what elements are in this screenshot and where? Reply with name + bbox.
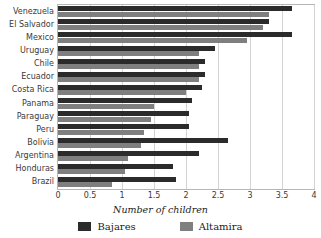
bar-bajares [58,138,228,143]
y-axis-label: Peru [0,125,54,134]
x-axis-tick-labels: 00.511.522.533.54 [0,191,321,203]
bar-altamira [58,169,125,174]
bar-altamira [58,143,141,148]
legend-item[interactable]: Bajares [78,221,135,232]
bar-group [58,31,314,44]
bar-bajares [58,177,176,182]
bar-group [58,123,314,136]
bar-bajares [58,59,205,64]
x-axis-tick: 3.5 [276,191,289,200]
legend-label: Altamira [199,221,243,232]
legend-item[interactable]: Altamira [180,221,243,232]
x-axis-tick: 1 [119,191,124,200]
gridline [314,5,315,189]
y-axis-label: Mexico [0,33,54,42]
x-axis-title: Number of children [0,204,321,215]
bar-bajares [58,98,192,103]
bar-group [58,5,314,18]
bar-bajares [58,124,189,129]
bar-altamira [58,25,263,30]
x-axis-tick: 0.5 [84,191,97,200]
y-axis-label: Argentina [0,151,54,160]
y-axis-label: Honduras [0,164,54,173]
bar-bajares [58,46,215,51]
bar-bajares [58,151,199,156]
bar-altamira [58,130,144,135]
bar-altamira [58,51,199,56]
bar-altamira [58,38,247,43]
bar-bajares [58,72,205,77]
bar-group [58,71,314,84]
bar-group [58,110,314,123]
bar-altamira [58,104,154,109]
bar-group [58,150,314,163]
bar-group [58,97,314,110]
legend-swatch-icon [78,222,91,231]
x-axis-tick: 1.5 [148,191,161,200]
bar-altamira [58,12,269,17]
y-axis-label: El Salvador [0,20,54,29]
bar-group [58,58,314,71]
bar-altamira [58,156,128,161]
x-axis-tick: 2.5 [212,191,225,200]
legend-swatch-icon [180,222,193,231]
x-axis-tick: 2 [183,191,188,200]
y-axis-label: Venezuela [0,7,54,16]
bars-layer [58,5,314,189]
bar-group [58,44,314,57]
bar-altamira [58,64,199,69]
bar-group [58,163,314,176]
bar-bajares [58,6,292,11]
bar-altamira [58,77,199,82]
bar-bajares [58,164,173,169]
y-axis-label: Panama [0,99,54,108]
x-axis-tick: 3 [247,191,252,200]
y-axis-labels: VenezuelaEl SalvadorMexicoUruguayChileEc… [0,5,54,189]
y-axis-label: Ecuador [0,72,54,81]
y-axis-label: Paraguay [0,112,54,121]
bar-bajares [58,19,269,24]
y-axis-label: Bolivia [0,138,54,147]
bar-group [58,136,314,149]
bar-group [58,18,314,31]
chart-legend: BajaresAltamira [0,221,321,232]
bar-altamira [58,90,186,95]
y-axis-label: Costa Rica [0,85,54,94]
y-axis-label: Uruguay [0,46,54,55]
bar-bajares [58,32,292,37]
bar-group [58,176,314,189]
bar-bajares [58,111,189,116]
bar-altamira [58,182,112,187]
y-axis-label: Brazil [0,177,54,186]
bar-chart: VenezuelaEl SalvadorMexicoUruguayChileEc… [0,0,321,238]
bar-bajares [58,85,202,90]
bar-group [58,84,314,97]
y-axis-label: Chile [0,59,54,68]
legend-label: Bajares [97,221,135,232]
x-axis-tick: 4 [311,191,316,200]
x-axis-tick: 0 [55,191,60,200]
bar-altamira [58,117,151,122]
